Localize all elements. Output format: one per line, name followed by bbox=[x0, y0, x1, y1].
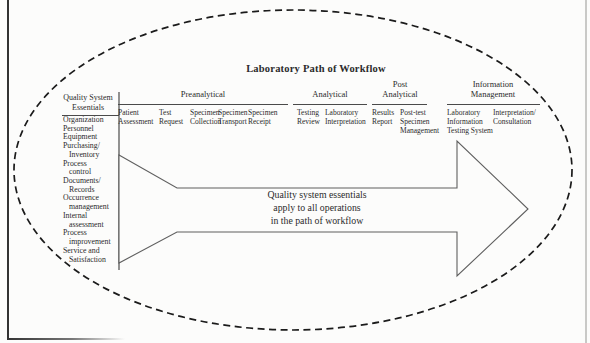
step-testing-review: Testing Review bbox=[297, 109, 320, 127]
stage-label-information-management: Information Management bbox=[443, 80, 543, 99]
step-interpretation-consultation: Interpretation/ Consultation bbox=[493, 109, 536, 127]
step-results-report: Results Report bbox=[372, 109, 394, 127]
step-specimen-transport: Specimen Transport bbox=[218, 109, 248, 127]
qse-item-service-satisfaction: Service and Satisfaction bbox=[63, 247, 123, 264]
step-laboratory-information-testing-system: Laboratory Information Testing System bbox=[447, 109, 493, 136]
stage-label-preanalytical: Preanalytical bbox=[153, 90, 253, 100]
qse-item-occurrence-management: Occurrence management bbox=[63, 194, 123, 211]
stage-label-post-analytical: Post Analytical bbox=[350, 80, 450, 99]
figure-title: Laboratory Path of Workflow bbox=[216, 62, 416, 75]
qse-header-line: Essentials bbox=[56, 103, 120, 113]
qse-item-documents-records: Documents/ Records bbox=[63, 177, 123, 194]
qse-item-process-improvement: Process improvement bbox=[63, 229, 123, 246]
qse-item-internal-assessment: Internal assessment bbox=[63, 212, 123, 229]
qse-header: Quality System Essentials bbox=[56, 93, 120, 113]
step-specimen-receipt: Specimen Receipt bbox=[248, 109, 278, 127]
step-patient-assessment: Patient Assessment bbox=[118, 109, 153, 127]
step-post-test-specimen-management: Post-test Specimen Management bbox=[400, 109, 439, 136]
figure-canvas: Laboratory Path of Workflow Quality Syst… bbox=[0, 0, 590, 343]
step-laboratory-interpretation: Laboratory Interpretation bbox=[325, 109, 366, 127]
qse-item-purchasing-inventory: Purchasing/ Inventory bbox=[63, 142, 123, 159]
qse-item-process-control: Process control bbox=[63, 160, 123, 177]
step-specimen-collection: Specimen Collection bbox=[190, 109, 221, 127]
arrow-caption: Quality system essentials apply to all o… bbox=[217, 188, 417, 227]
step-test-request: Test Request bbox=[159, 109, 183, 127]
qse-list: Organization Personnel Equipment Purchas… bbox=[63, 116, 123, 264]
qse-header-line: Quality System bbox=[56, 93, 120, 103]
